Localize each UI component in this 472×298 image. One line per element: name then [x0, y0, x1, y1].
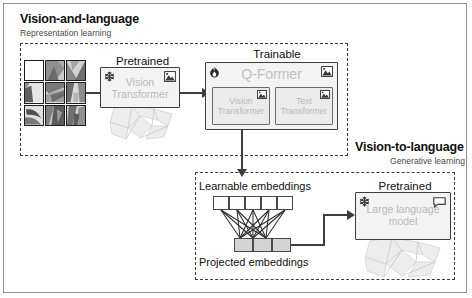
block-label-qformer-text-transformer: Text Transformer	[276, 97, 332, 116]
caption-projected-embeddings: Projected embeddings	[199, 256, 308, 268]
crumpled-paper-graphic-vit	[106, 106, 180, 140]
learnable-embedding-token[interactable]	[213, 196, 229, 210]
section-subtitle-representation-learning: Representation learning	[20, 28, 111, 38]
image-patch	[24, 60, 44, 81]
image-patch	[24, 105, 44, 126]
learnable-embedding-token[interactable]	[261, 196, 277, 210]
flame-icon	[209, 66, 220, 78]
projected-embedding-token[interactable]	[272, 238, 291, 252]
image-patch	[45, 105, 65, 126]
learnable-embedding-token[interactable]	[229, 196, 245, 210]
image-patch	[45, 82, 65, 103]
image-icon	[257, 90, 267, 99]
image-icon	[321, 66, 333, 77]
image-patch	[66, 60, 86, 81]
input-image-grid	[24, 60, 86, 126]
image-patch	[66, 105, 86, 126]
arrowhead-embeddings-to-llm	[347, 210, 355, 220]
crumpled-paper-graphic-llm	[360, 238, 450, 278]
image-patch	[24, 82, 44, 103]
stage-caption-pretrained-llm: Pretrained	[357, 180, 453, 192]
projected-embeddings-row	[234, 238, 291, 252]
projected-embedding-token[interactable]	[253, 238, 272, 252]
section-title-vision-and-language: Vision-and-language	[20, 12, 139, 26]
figure-canvas: Vision-and-language Representation learn…	[0, 0, 472, 298]
connector-embeddings-to-llm-h2	[323, 214, 349, 216]
projected-embedding-token[interactable]	[234, 238, 253, 252]
snowflake-icon	[359, 196, 370, 207]
learnable-embedding-token[interactable]	[277, 196, 293, 210]
learnable-embeddings-row	[213, 196, 293, 210]
connector-vit-to-qformer	[180, 92, 203, 94]
section-subtitle-generative-learning: Generative learning	[390, 156, 465, 166]
stage-caption-trainable-qformer: Trainable	[212, 48, 342, 60]
image-icon	[320, 90, 330, 99]
snowflake-icon	[104, 71, 115, 82]
speech-bubble-icon	[433, 197, 446, 208]
section-title-vision-to-language: Vision-to-language	[355, 140, 464, 154]
image-patch	[45, 60, 65, 81]
block-qformer-vision-transformer[interactable]: Vision Transformer	[212, 87, 270, 125]
block-vision-transformer[interactable]: Vision Transformer	[100, 67, 180, 108]
block-q-former[interactable]: Q-Former Vision Transformer Tex	[205, 62, 338, 130]
block-large-language-model[interactable]: Large language model	[355, 192, 451, 240]
block-qformer-text-transformer[interactable]: Text Transformer	[275, 87, 333, 125]
stage-caption-pretrained-vit: Pretrained	[105, 55, 180, 67]
block-label-qformer-vision-transformer: Vision Transformer	[213, 97, 269, 116]
connector-qformer-to-embeddings	[241, 130, 243, 171]
connector-embeddings-to-llm-h1	[291, 244, 325, 246]
learnable-embedding-token[interactable]	[245, 196, 261, 210]
image-patch	[66, 82, 86, 103]
image-icon	[164, 71, 176, 82]
projection-edges	[213, 210, 293, 238]
connector-embeddings-to-llm-v	[323, 214, 325, 245]
block-label-q-former: Q-Former	[206, 67, 337, 83]
caption-learnable-embeddings: Learnable embeddings	[199, 180, 311, 192]
